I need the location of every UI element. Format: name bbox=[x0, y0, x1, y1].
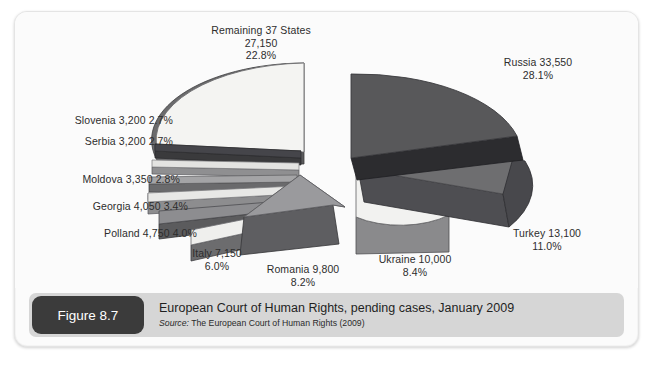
figure-caption-title: European Court of Human Rights, pending … bbox=[159, 301, 624, 316]
slice-label-russia: Russia 33,550 28.1% bbox=[463, 56, 613, 81]
source-value: The European Court of Human Rights (2009… bbox=[189, 318, 365, 328]
slice-label-italy: Italy 7,150 6.0% bbox=[157, 247, 277, 272]
slice-label-serbia: Serbia 3,200 2.7% bbox=[15, 135, 173, 148]
pie-chart: Remaining 37 States 27,150 22.8% Russia … bbox=[15, 12, 638, 288]
source-word: Source: bbox=[159, 318, 189, 328]
slice-label-turkey: Turkey 13,100 11.0% bbox=[477, 227, 617, 252]
slice-label-slovenia: Slovenia 3,200 2.7% bbox=[15, 114, 173, 127]
figure-caption-bar: Figure 8.7 European Court of Human Right… bbox=[29, 293, 624, 337]
slice-label-moldova: Moldova 3,350 2.8% bbox=[15, 173, 180, 186]
figure-caption-text: European Court of Human Rights, pending … bbox=[159, 301, 624, 329]
slice-label-georgia: Georgia 4,050 3.4% bbox=[15, 200, 188, 213]
figure-card: Remaining 37 States 27,150 22.8% Russia … bbox=[14, 11, 639, 347]
figure-caption-source: Source: The European Court of Human Righ… bbox=[159, 317, 624, 329]
figure-number-badge: Figure 8.7 bbox=[32, 296, 144, 334]
slice-label-polland: Polland 4,750 4.0% bbox=[15, 227, 197, 240]
slice-label-remaining-37-states: Remaining 37 States 27,150 22.8% bbox=[172, 24, 350, 62]
